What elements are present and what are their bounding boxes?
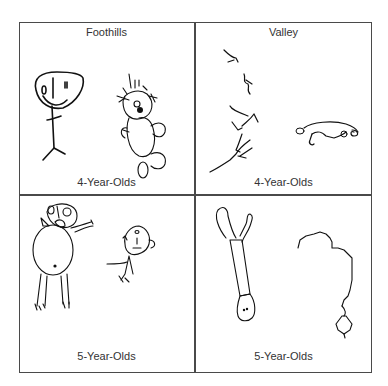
panel-foothills-4-year-olds: Foothills 4-Year-Olds [19, 22, 194, 194]
panel-bottom-left-5-year-olds: 5-Year-Olds [19, 196, 194, 368]
panel-caption: 5-Year-Olds [196, 350, 371, 362]
drawing-horizontal-animal-figure [196, 22, 371, 194]
drawing-teddy-bear-figure [19, 22, 194, 194]
panel-valley-4-year-olds: Valley 4-Year-Olds [196, 22, 371, 194]
panel-caption: 4-Year-Olds [196, 176, 371, 188]
panel-bottom-right-5-year-olds: 5-Year-Olds [196, 196, 371, 368]
drawing-small-stick-figure [19, 196, 194, 368]
panel-caption: 5-Year-Olds [19, 350, 194, 362]
panel-caption: 4-Year-Olds [19, 176, 194, 188]
drawing-jagged-outline-figure [196, 196, 371, 368]
